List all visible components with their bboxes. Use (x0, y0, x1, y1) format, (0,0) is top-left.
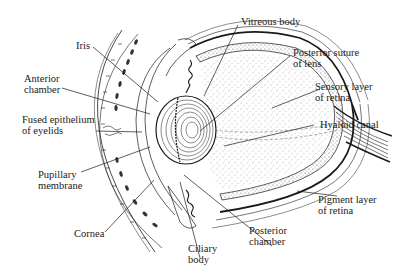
label-line: Ciliary (188, 243, 217, 254)
label-pigment-layer-of-retina: Pigment layer of retina (318, 194, 377, 216)
label-line: Iris (76, 40, 90, 51)
label-fused-epithelium-of-eyelids: Fused epithelium of eyelids (22, 114, 95, 136)
label-posterior-suture-of-lens: Posterior suture of lens (293, 47, 359, 69)
label-line: Fused epithelium (22, 114, 95, 125)
label-line: chamber (24, 84, 60, 95)
label-ciliary-body: Ciliary body (188, 243, 217, 265)
label-line: Sensory layer (315, 81, 372, 92)
label-line: of retina (315, 92, 372, 103)
label-cornea: Cornea (74, 228, 104, 239)
label-sensory-layer-of-retina: Sensory layer of retina (315, 81, 372, 103)
label-hyaloid-canal: Hyaloid canal (320, 119, 379, 130)
eye-anatomy-diagram: Vitreous body Iris Posterior suture of l… (0, 0, 402, 277)
label-line: membrane (38, 180, 82, 191)
label-line: Hyaloid canal (320, 119, 379, 130)
label-line: body (188, 254, 217, 265)
label-vitreous-body: Vitreous body (241, 16, 300, 27)
label-line: Anterior (24, 73, 60, 84)
fused-lid-region (103, 126, 122, 136)
label-line: Cornea (74, 228, 104, 239)
label-line: Posterior (249, 225, 287, 236)
label-line: Posterior suture (293, 47, 359, 58)
label-line: of lens (293, 58, 359, 69)
lens (156, 96, 216, 164)
label-pupillary-membrane: Pupillary membrane (38, 169, 82, 191)
label-line: Pigment layer (318, 194, 377, 205)
label-posterior-chamber: Posterior chamber (249, 225, 287, 247)
label-line: chamber (249, 236, 287, 247)
label-line: Vitreous body (241, 16, 300, 27)
eye-illustration (0, 0, 402, 277)
label-line: of retina (318, 205, 377, 216)
label-iris: Iris (76, 40, 90, 51)
label-line: of eyelids (22, 125, 95, 136)
label-line: Pupillary (38, 169, 82, 180)
label-anterior-chamber: Anterior chamber (24, 73, 60, 95)
